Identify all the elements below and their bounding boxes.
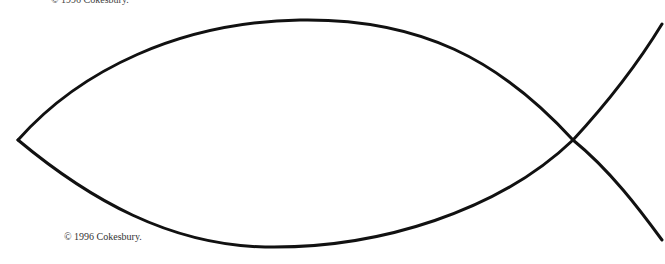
fish-outline-icon [0, 0, 665, 264]
copyright-text-bottom: © 1996 Cokesbury. [64, 231, 142, 242]
fish-upper-curve [18, 20, 662, 140]
